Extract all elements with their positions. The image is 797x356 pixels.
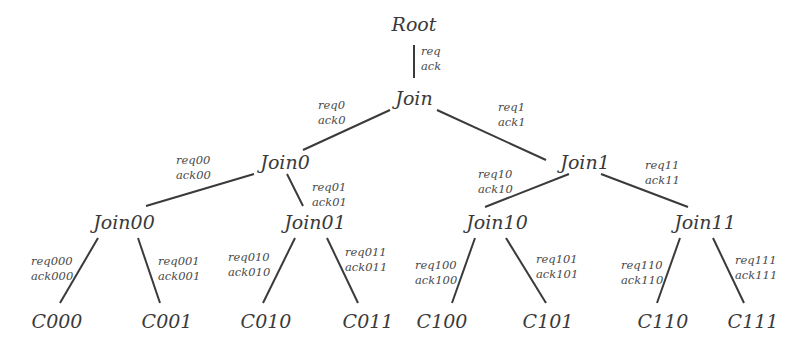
ack-signal-label: ack11 <box>645 173 680 188</box>
edge-label-c110: req110ack110 <box>621 258 663 288</box>
ack-signal-label: ack <box>421 59 441 74</box>
node-join11: Join11 <box>674 213 736 232</box>
edge-label-c111: req111ack111 <box>735 253 777 283</box>
req-signal-label: req001 <box>158 254 200 269</box>
ack-signal-label: ack10 <box>478 182 513 197</box>
ack-signal-label: ack00 <box>176 168 211 183</box>
req-signal-label: req000 <box>31 254 73 269</box>
tree-diagram: reqackreq0ack0req1ack1req00ack00req01ack… <box>0 0 797 356</box>
node-join00: Join00 <box>93 213 155 232</box>
edge-label-c001: req001ack001 <box>158 254 200 284</box>
ack-signal-label: ack010 <box>228 265 270 280</box>
req-signal-label: req110 <box>621 258 663 273</box>
node-c100: C100 <box>417 312 468 331</box>
node-join01: Join01 <box>284 213 346 232</box>
req-signal-label: req00 <box>176 153 211 168</box>
req-signal-label: req010 <box>228 250 270 265</box>
edge-join-join0 <box>303 110 390 150</box>
edge-label-join00: req00ack00 <box>176 153 211 183</box>
node-join0: Join0 <box>260 153 309 172</box>
req-signal-label: req <box>421 44 441 59</box>
node-c001: C001 <box>142 312 193 331</box>
node-root: Root <box>392 15 437 34</box>
ack-signal-label: ack1 <box>498 115 526 130</box>
edge-label-join0: req0ack0 <box>318 98 346 128</box>
ack-signal-label: ack101 <box>536 267 578 282</box>
edge-join00-c001 <box>138 238 160 303</box>
ack-signal-label: ack111 <box>735 268 777 283</box>
req-signal-label: req011 <box>345 245 387 260</box>
ack-signal-label: ack001 <box>158 269 200 284</box>
node-c000: C000 <box>32 312 83 331</box>
node-join: Join <box>395 89 432 108</box>
edge-label-c000: req000ack000 <box>31 254 73 284</box>
req-signal-label: req100 <box>415 258 457 273</box>
edge-label-join11: req11ack11 <box>645 158 680 188</box>
req-signal-label: req10 <box>478 167 513 182</box>
edge-join-join1 <box>437 110 546 160</box>
req-signal-label: req1 <box>498 100 526 115</box>
req-signal-label: req01 <box>312 180 347 195</box>
req-signal-label: req111 <box>735 253 777 268</box>
node-join10: Join10 <box>466 213 528 232</box>
req-signal-label: req101 <box>536 252 578 267</box>
ack-signal-label: ack01 <box>312 195 347 210</box>
node-c011: C011 <box>343 312 394 331</box>
edge-label-join10: req10ack10 <box>478 167 513 197</box>
ack-signal-label: ack100 <box>415 273 457 288</box>
edge-label-join01: req01ack01 <box>312 180 347 210</box>
node-c101: C101 <box>523 312 574 331</box>
edge-label-join: reqack <box>421 44 441 74</box>
edge-label-c010: req010ack010 <box>228 250 270 280</box>
ack-signal-label: ack0 <box>318 113 346 128</box>
edge-label-join1: req1ack1 <box>498 100 526 130</box>
edge-join0-join01 <box>287 174 303 206</box>
req-signal-label: req11 <box>645 158 680 173</box>
node-c111: C111 <box>728 312 779 331</box>
edge-label-c100: req100ack100 <box>415 258 457 288</box>
ack-signal-label: ack011 <box>345 260 387 275</box>
edge-label-c101: req101ack101 <box>536 252 578 282</box>
ack-signal-label: ack000 <box>31 269 73 284</box>
node-c010: C010 <box>241 312 292 331</box>
edge-label-c011: req011ack011 <box>345 245 387 275</box>
req-signal-label: req0 <box>318 98 346 113</box>
node-c110: C110 <box>638 312 689 331</box>
node-join1: Join1 <box>560 153 609 172</box>
ack-signal-label: ack110 <box>621 273 663 288</box>
